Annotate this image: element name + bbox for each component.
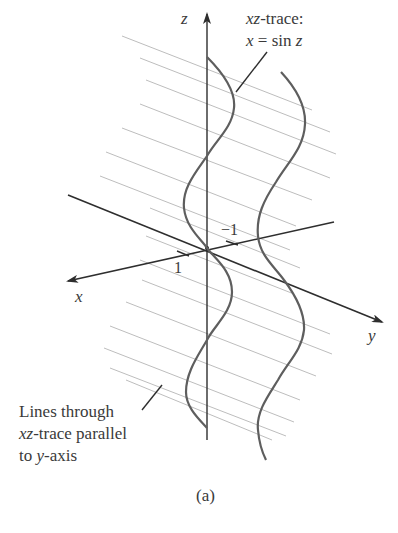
rulings-leader-line	[142, 385, 162, 410]
x-axis	[68, 222, 334, 281]
x-tick-label: 1	[174, 258, 182, 278]
xz-trace-curve	[184, 57, 234, 428]
rulings-label-line1: Lines through	[19, 402, 114, 422]
trace-title: xz-trace:	[246, 9, 304, 29]
y-tick-label: −1	[221, 220, 238, 240]
rulings-label-line2: xz-trace parallel	[19, 424, 127, 444]
y-axis-label: y	[368, 326, 376, 346]
shifted-trace-curve	[258, 72, 305, 460]
trace-equation: x = sin z	[246, 31, 302, 51]
z-axis-label: z	[181, 9, 188, 29]
x-axis-label: x	[75, 287, 83, 307]
figure-caption: (a)	[196, 486, 215, 506]
rulings-label-line3: to y-axis	[19, 446, 77, 466]
ruling-lines	[100, 36, 336, 440]
y-axis	[68, 195, 382, 322]
